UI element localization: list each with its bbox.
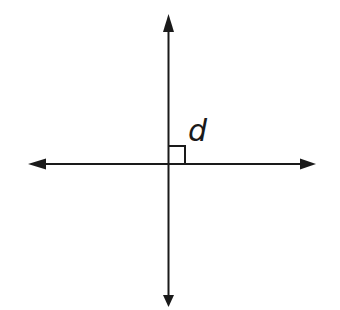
right-angle-marker bbox=[169, 146, 186, 164]
arrow-left-icon bbox=[28, 159, 46, 170]
vertical-line bbox=[163, 14, 174, 307]
arrow-down-icon bbox=[163, 295, 174, 307]
arrow-up-icon bbox=[163, 14, 174, 32]
arrow-right-icon bbox=[300, 159, 316, 170]
label-d: d bbox=[188, 113, 208, 148]
perpendicular-lines-diagram: d bbox=[0, 0, 340, 310]
horizontal-line bbox=[28, 159, 316, 170]
